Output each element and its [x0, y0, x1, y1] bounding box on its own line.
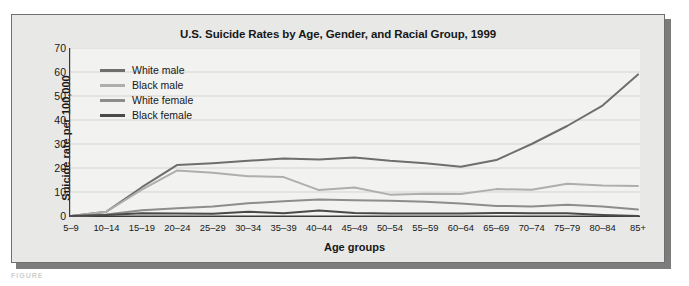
legend-item-black-male: Black male — [100, 78, 193, 93]
y-tick-label: 60 — [38, 67, 66, 77]
legend-label: Black male — [132, 80, 183, 91]
chart-legend: White maleBlack maleWhite femaleBlack fe… — [100, 63, 193, 123]
x-tick-label: 10–14 — [93, 222, 119, 233]
figure-frame: U.S. Suicide Rates by Age, Gender, and R… — [11, 14, 665, 263]
legend-label: Black female — [132, 110, 192, 121]
y-tick-label: 10 — [38, 187, 66, 197]
y-tick-label: 50 — [38, 91, 66, 101]
plot-area: Suicide rate per 100,000 Age groups 0102… — [69, 48, 640, 217]
series-line-black-female — [71, 210, 638, 216]
legend-label: White male — [132, 65, 185, 76]
legend-item-white-female: White female — [100, 93, 193, 108]
x-tick-label: 80–84 — [590, 222, 616, 233]
y-tick-label: 30 — [38, 139, 66, 149]
x-tick-label: 55–59 — [412, 222, 438, 233]
legend-item-white-male: White male — [100, 63, 193, 78]
x-tick-label: 65–69 — [483, 222, 509, 233]
x-tick-label: 20–24 — [164, 222, 190, 233]
y-tick-label: 0 — [38, 211, 66, 221]
figure-caption-fragment: FIGURE — [11, 272, 43, 279]
x-tick-label: 35–39 — [271, 222, 297, 233]
x-axis-title: Age groups — [69, 241, 640, 253]
x-tick-label: 15–19 — [129, 222, 155, 233]
legend-swatch-icon — [100, 69, 125, 72]
x-tick-label: 50–54 — [377, 222, 403, 233]
legend-swatch-icon — [100, 99, 125, 102]
legend-label: White female — [132, 95, 193, 106]
x-tick-label: 75–79 — [554, 222, 580, 233]
y-tick-label: 40 — [38, 115, 66, 125]
y-tick-label: 70 — [38, 43, 66, 53]
legend-swatch-icon — [100, 114, 125, 117]
legend-swatch-icon — [100, 84, 125, 87]
x-tick-label: 70–74 — [519, 222, 545, 233]
x-tick-label: 40–44 — [306, 222, 332, 233]
x-tick-label: 30–34 — [235, 222, 261, 233]
x-tick-label: 45–49 — [341, 222, 367, 233]
legend-item-black-female: Black female — [100, 108, 193, 123]
x-tick-label: 60–64 — [448, 222, 474, 233]
x-tick-label: 5–9 — [63, 222, 79, 233]
x-tick-label: 25–29 — [200, 222, 226, 233]
chart-title: U.S. Suicide Rates by Age, Gender, and R… — [12, 28, 664, 40]
y-tick-label: 20 — [38, 163, 66, 173]
x-tick-label: 85+ — [630, 222, 646, 233]
